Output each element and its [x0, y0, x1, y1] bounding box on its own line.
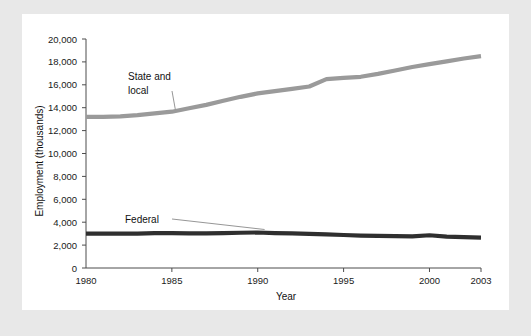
x-tick-label: 1980: [75, 275, 96, 286]
x-tick-label: 1995: [333, 275, 354, 286]
y-tick-label: 2,000: [53, 240, 77, 251]
state-and-local-leader-line: [172, 91, 175, 109]
y-tick-label: 6,000: [53, 194, 77, 205]
y-tick-label: 8,000: [53, 171, 77, 182]
figure-outer-frame: 02,0004,0006,0008,00010,00012,00014,0001…: [0, 0, 531, 336]
x-tick-label: 1985: [161, 275, 182, 286]
x-tick-label: 2000: [419, 275, 440, 286]
series-line-federal: [86, 233, 481, 238]
federal-leader-line: [172, 219, 265, 230]
y-tick-label: 20,000: [48, 34, 77, 45]
x-axis-tick-marks: [172, 268, 481, 272]
employment-line-chart: 02,0004,0006,0008,00010,00012,00014,0001…: [22, 14, 509, 310]
x-axis-title: Year: [276, 291, 297, 302]
y-axis-title: Employment (thousands): [34, 105, 45, 216]
y-axis-tick-marks: [82, 39, 86, 268]
y-tick-label: 18,000: [48, 56, 77, 67]
x-tick-label: 2003: [470, 275, 491, 286]
series-label-federal: Federal: [125, 214, 159, 225]
y-tick-label: 4,000: [53, 217, 77, 228]
y-tick-label: 14,000: [48, 102, 77, 113]
series-label-state-and-local-line1: State and: [128, 71, 171, 82]
x-axis-tick-labels: 198019851990199520002003: [75, 275, 491, 286]
y-tick-label: 12,000: [48, 125, 77, 136]
y-axis-tick-labels: 02,0004,0006,0008,00010,00012,00014,0001…: [48, 34, 77, 274]
y-tick-label: 10,000: [48, 148, 77, 159]
x-tick-label: 1990: [247, 275, 268, 286]
series-label-state-and-local-line2: local: [128, 85, 149, 96]
y-tick-label: 16,000: [48, 79, 77, 90]
y-tick-label: 0: [72, 263, 77, 274]
chart-panel: 02,0004,0006,0008,00010,00012,00014,0001…: [22, 14, 509, 310]
